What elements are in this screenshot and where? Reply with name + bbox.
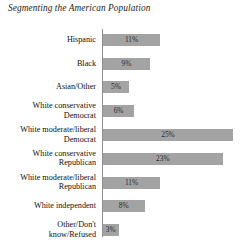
category-label-line: White conservative [0, 149, 96, 159]
category-label-line: White independent [0, 201, 96, 211]
category-label-line: Democrat [0, 111, 96, 121]
bar-value-label: 6% [103, 108, 134, 115]
bar-row: Other/Don'tknow/Refused3% [0, 224, 243, 236]
bar-value-label: 8% [103, 203, 145, 210]
category-label-line: Republican [0, 158, 96, 168]
category-label: Hispanic [0, 35, 96, 45]
bar-value-label: 25% [103, 131, 233, 138]
chart-title: Segmenting the American Population [8, 3, 150, 13]
category-label: Other/Don'tknow/Refused [0, 220, 96, 239]
bar-track: 6% [103, 105, 134, 117]
category-label-line: White conservative [0, 101, 96, 111]
category-label-line: Asian/Other [0, 82, 96, 92]
bar-row: Black9% [0, 58, 243, 70]
bar: 25% [103, 129, 233, 141]
category-label: White moderate/liberalRepublican [0, 173, 96, 192]
bar-track: 11% [103, 177, 160, 189]
category-label-line: White moderate/liberal [0, 173, 96, 183]
bar-value-label: 11% [103, 179, 160, 186]
bar-track: 5% [103, 81, 129, 93]
bar: 11% [103, 34, 160, 46]
bar: 11% [103, 177, 160, 189]
bar: 5% [103, 81, 129, 93]
bar-row: White moderate/liberalRepublican11% [0, 177, 243, 189]
bar: 9% [103, 58, 150, 70]
category-label-line: Black [0, 59, 96, 69]
category-label-line: Republican [0, 182, 96, 192]
bar-row: Asian/Other5% [0, 81, 243, 93]
bar: 3% [103, 224, 119, 236]
bar: 6% [103, 105, 134, 117]
bar-chart-figure: Segmenting the American Population Hispa… [0, 0, 243, 243]
category-label: White conservativeDemocrat [0, 101, 96, 120]
bar-value-label: 23% [103, 155, 223, 162]
category-label: White moderate/liberalDemocrat [0, 125, 96, 144]
bar-track: 11% [103, 34, 160, 46]
bar-track: 8% [103, 200, 145, 212]
category-label-line: know/Refused [0, 230, 96, 240]
category-label: White independent [0, 201, 96, 211]
bar-value-label: 11% [103, 36, 160, 43]
bar-row: White conservativeDemocrat6% [0, 105, 243, 117]
category-label-line: Democrat [0, 135, 96, 145]
bar-track: 25% [103, 129, 233, 141]
plot-area: Hispanic11%Black9%Asian/Other5%White con… [0, 26, 243, 240]
bar-row: Hispanic11% [0, 34, 243, 46]
bar-track: 23% [103, 153, 223, 165]
bar-row: White independent8% [0, 200, 243, 212]
category-label: Asian/Other [0, 82, 96, 92]
bar-value-label: 3% [103, 226, 119, 233]
category-label-line: White moderate/liberal [0, 125, 96, 135]
category-label: White conservativeRepublican [0, 149, 96, 168]
bar-value-label: 9% [103, 60, 150, 67]
category-label: Black [0, 59, 96, 69]
bar: 8% [103, 200, 145, 212]
bar-value-label: 5% [103, 84, 129, 91]
bar-track: 3% [103, 224, 119, 236]
bar: 23% [103, 153, 223, 165]
category-label-line: Hispanic [0, 35, 96, 45]
bar-row: White conservativeRepublican23% [0, 153, 243, 165]
category-label-line: Other/Don't [0, 220, 96, 230]
bar-track: 9% [103, 58, 150, 70]
bar-row: White moderate/liberalDemocrat25% [0, 129, 243, 141]
